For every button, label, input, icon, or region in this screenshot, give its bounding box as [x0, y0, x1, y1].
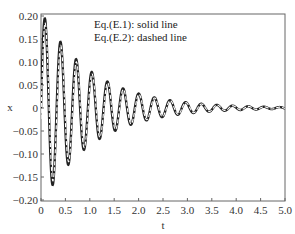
- x-tick-label: 5.0: [278, 204, 292, 216]
- legend-line-1: Eq.(E.1): solid line: [94, 18, 178, 31]
- x-tick-label: 0.5: [59, 204, 73, 216]
- x-tick-label: 4.0: [229, 204, 243, 216]
- x-tick-label: 3.5: [205, 204, 219, 216]
- x-tick-label: 1.0: [83, 204, 97, 216]
- y-tick-label: 0.10: [19, 56, 39, 68]
- x-tick-label: 2.5: [156, 204, 170, 216]
- x-tick-label: 4.5: [254, 204, 268, 216]
- y-axis-ticks: 0.200.150.100.050−0.05−0.10−0.15−0.20: [13, 10, 44, 206]
- y-tick-label: −0.15: [13, 171, 39, 183]
- y-tick-label: 0.20: [19, 10, 39, 22]
- y-tick-label: −0.10: [13, 148, 39, 160]
- y-tick-label: 0.05: [19, 79, 39, 91]
- legend-line-2: Eq.(E.2): dashed line: [94, 31, 187, 44]
- y-axis-label: x: [7, 101, 13, 113]
- series-eq-e1-solid-line: [41, 18, 285, 184]
- x-tick-label: 1.5: [107, 204, 121, 216]
- y-tick-label: 0.15: [19, 33, 39, 45]
- damped-oscillation-chart: 0.200.150.100.050−0.05−0.10−0.15−0.20 00…: [0, 0, 295, 234]
- x-tick-label: 3.0: [181, 204, 195, 216]
- x-tick-label: 0: [38, 204, 44, 216]
- y-tick-label: −0.05: [13, 125, 39, 137]
- x-axis-label: t: [161, 219, 164, 231]
- y-tick-label: 0: [33, 102, 39, 114]
- x-tick-label: 2.0: [132, 204, 146, 216]
- series-eq-e2-dashed-line: [41, 23, 285, 181]
- y-tick-label: −0.20: [13, 194, 39, 206]
